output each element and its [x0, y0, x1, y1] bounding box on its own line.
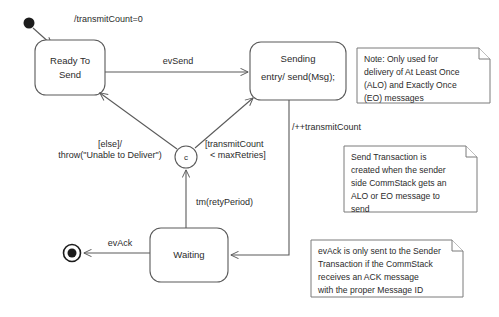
note-alo-eo-line-1: Note: Only used for [364, 54, 438, 64]
note-ev-ack-line-4: with the proper Message ID [317, 285, 423, 295]
note-send-transaction[interactable]: Send Transaction is created when the sen… [344, 146, 477, 214]
state-sending-label: Sending [281, 53, 316, 64]
note-alo-eo[interactable]: Note: Only used for delivery of At Least… [357, 48, 490, 103]
note-ev-ack-line-2: Transaction if the CommStack [318, 259, 433, 269]
transition-label-tm-rety-period: tm(retyPeriod) [196, 197, 253, 207]
state-ready-to-send-label-line2: Send [59, 69, 81, 80]
note-send-transaction-line-2: created when the sender [351, 165, 446, 175]
transition-sending-to-waiting[interactable] [231, 100, 289, 255]
state-waiting-label: Waiting [173, 249, 204, 260]
transition-label-ev-send: evSend [163, 56, 194, 66]
transition-label-increment-transmit-count: /++transmitCount [292, 122, 362, 132]
note-ev-ack[interactable]: evAck is only sent to the Sender Transac… [311, 240, 463, 297]
uml-state-diagram: /transmitCount=0 Ready To Send Sending e… [0, 0, 499, 317]
transition-label-ev-ack: evAck [108, 238, 133, 248]
initial-pseudostate[interactable] [24, 18, 35, 29]
note-send-transaction-line-4: ALO or EO message to [351, 191, 440, 201]
transition-label-transmit-count-guard-line2: < maxRetries] [210, 150, 266, 160]
note-alo-eo-line-4: (EO) messages [364, 93, 424, 103]
state-sending-entry-action: entry/ send(Msg); [261, 71, 335, 82]
final-state-inner-dot [68, 249, 77, 258]
diagram-canvas: /transmitCount=0 Ready To Send Sending e… [0, 0, 499, 317]
transition-label-else-guard: [else]/ [98, 139, 123, 149]
transition-label-transmit-count-guard-line1: [transmitCount [205, 139, 264, 149]
transition-label-transmit-count-init: /transmitCount=0 [74, 14, 143, 24]
note-alo-eo-line-3: (ALO) and Exactly Once [364, 80, 457, 90]
state-ready-to-send[interactable] [35, 40, 105, 95]
note-send-transaction-line-1: Send Transaction is [351, 152, 426, 162]
state-ready-to-send-label-line1: Ready To [50, 55, 90, 66]
transition-label-throw-unable-to-deliver: throw("Unable to Deliver") [58, 150, 161, 160]
note-send-transaction-line-3: side CommStack gets an [351, 178, 447, 188]
note-send-transaction-line-5: send [351, 204, 370, 214]
note-ev-ack-line-1: evAck is only sent to the Sender [318, 246, 441, 256]
note-ev-ack-line-3: receives an ACK message [318, 272, 419, 282]
choice-pseudostate-label: c [184, 153, 188, 162]
note-alo-eo-line-2: delivery of At Least Once [364, 67, 460, 77]
